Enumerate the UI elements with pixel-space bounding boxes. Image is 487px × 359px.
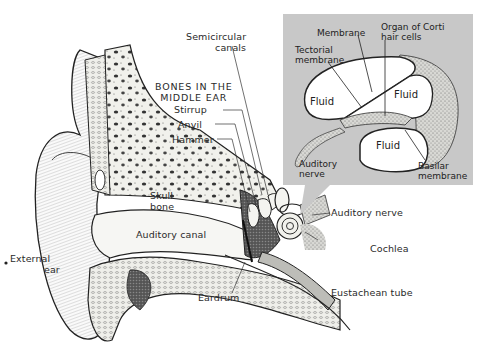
inset-label-membrane: Membrane xyxy=(317,28,365,38)
label-line: nerve xyxy=(299,169,337,179)
inner-ear-shape xyxy=(275,188,304,239)
label-hammer: Hammer xyxy=(172,134,214,145)
label-line: bone xyxy=(150,201,174,212)
inset-label-tectorial-membrane: Tectorial membrane xyxy=(295,45,344,65)
label-cochlea: Cochlea xyxy=(370,243,409,254)
label-line: BONES IN THE xyxy=(155,81,232,92)
label-line: Skull xyxy=(150,190,174,201)
label-line: membrane xyxy=(418,171,467,181)
label-line: External xyxy=(10,253,60,264)
label-auditory-canal: Auditory canal xyxy=(136,229,206,240)
label-line: Organ of Corti xyxy=(381,22,444,32)
label-line: ear xyxy=(10,264,60,275)
ear-anatomy-diagram: Semicircular canals BONES IN THE MIDDLE … xyxy=(0,0,487,359)
label-line: Auditory xyxy=(299,159,337,169)
label-line: membrane xyxy=(295,55,344,65)
label-external-ear: External ear xyxy=(10,253,60,275)
inset-label-fluid-bottom: Fluid xyxy=(376,141,400,151)
inset-label-auditory-nerve: Auditory nerve xyxy=(299,159,337,179)
inset-label-organ-of-corti: Organ of Corti hair cells xyxy=(381,22,444,42)
inset-label-fluid-right: Fluid xyxy=(394,90,418,100)
label-semicircular-canals: Semicircular canals xyxy=(186,31,246,53)
label-line: hair cells xyxy=(381,32,444,42)
label-bones-title: BONES IN THE MIDDLE EAR xyxy=(155,81,232,103)
label-skull-bone: Skull bone xyxy=(150,190,174,212)
label-line: Semicircular xyxy=(186,31,246,42)
ear-illustration xyxy=(0,0,487,359)
inset-label-fluid-left: Fluid xyxy=(310,97,334,107)
label-line: Tectorial xyxy=(295,45,344,55)
label-line: canals xyxy=(186,42,246,53)
label-stirrup: Stirrup xyxy=(174,104,207,115)
label-eustachean-tube: Eustachean tube xyxy=(331,287,413,298)
label-line: Basilar xyxy=(418,161,467,171)
label-eardrum: Eardrum xyxy=(198,292,239,303)
label-anvil: Anvil xyxy=(178,119,202,130)
label-line: MIDDLE EAR xyxy=(155,92,232,103)
label-auditory-nerve: Auditory nerve xyxy=(331,207,403,218)
inset-label-basilar-membrane: Basilar membrane xyxy=(418,161,467,181)
